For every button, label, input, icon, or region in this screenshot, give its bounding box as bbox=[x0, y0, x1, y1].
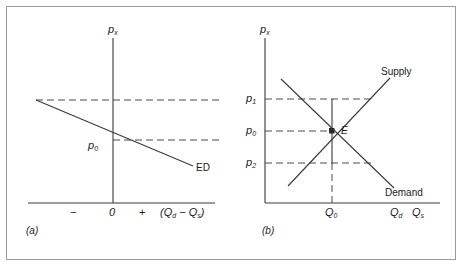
figure-container: px p0 ED − 0 + (Qd − Qs) (a) px p1 p0 p2… bbox=[0, 0, 462, 266]
panel-b-x-axis-qs-label: Qs bbox=[412, 207, 424, 218]
diagram-svg bbox=[0, 0, 462, 266]
panel-b-demand-curve bbox=[281, 79, 394, 188]
panel-b-y-axis-label-sub: x bbox=[266, 29, 270, 36]
panel-a-x-axis-label: (Qd − Qs) bbox=[160, 207, 204, 218]
panel-a-x-axis-minus: − Q bbox=[176, 206, 197, 218]
panel-a-price-label-sub: 0 bbox=[94, 145, 98, 152]
panel-a-x-axis-sub-s: s bbox=[197, 212, 201, 219]
panel-b-demand-label: Demand bbox=[385, 188, 423, 198]
panel-a-origin-label: 0 bbox=[109, 207, 115, 218]
panel-b-price-p1-label: p1 bbox=[246, 93, 256, 104]
panel-a-ed-label: ED bbox=[196, 163, 210, 173]
panel-b-supply-label: Supply bbox=[381, 67, 412, 77]
panel-b-equilibrium-label: E bbox=[341, 126, 348, 136]
quantity-q0-text: Q bbox=[325, 206, 334, 218]
qd-text: Q bbox=[390, 206, 399, 218]
quantity-q0-sub: 0 bbox=[334, 212, 338, 219]
panel-a-x-axis-open: (Q bbox=[160, 206, 172, 218]
panel-a-y-axis-label-sub: x bbox=[114, 29, 118, 36]
qs-sub: s bbox=[421, 212, 425, 219]
panel-a-minus-label: − bbox=[70, 207, 76, 218]
panel-a-y-axis-label: px bbox=[108, 24, 118, 35]
panel-b-quantity-q0-label: Q0 bbox=[325, 207, 337, 218]
panel-b-x-axis-qd-label: Qd bbox=[390, 207, 402, 218]
panel-b-caption: (b) bbox=[262, 226, 274, 236]
qs-text: Q bbox=[412, 206, 421, 218]
panel-a-plus-label: + bbox=[139, 207, 145, 218]
panel-b-price-p2-label: p2 bbox=[246, 157, 256, 168]
equilibrium-point-marker bbox=[329, 128, 335, 134]
panel-a-price-label: p0 bbox=[88, 140, 98, 151]
panel-a-caption: (a) bbox=[26, 226, 38, 236]
panel-b-y-axis-label: px bbox=[260, 24, 270, 35]
panel-b-price-p0-label: p0 bbox=[246, 125, 256, 136]
price-p1-sub: 1 bbox=[252, 98, 256, 105]
price-p0-sub: 0 bbox=[252, 130, 256, 137]
price-p2-sub: 2 bbox=[252, 162, 256, 169]
qd-sub: d bbox=[399, 212, 403, 219]
panel-a-x-axis-close: ) bbox=[201, 206, 205, 218]
panel-a-x-axis-sub-d: d bbox=[172, 212, 176, 219]
panel-b-group bbox=[265, 38, 440, 203]
panel-a-group bbox=[28, 38, 222, 203]
panel-a-ed-curve bbox=[36, 100, 193, 166]
